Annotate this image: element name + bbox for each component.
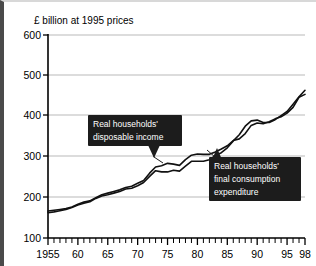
x-tick-label-75: 75 xyxy=(162,248,174,260)
x-tick-labels: 1955606570758085909598 xyxy=(36,248,311,260)
callout-disposable-income-line1: Real households' xyxy=(93,119,158,129)
x-tick-label-1955: 1955 xyxy=(36,248,60,260)
x-minor-tickmarks xyxy=(48,238,305,245)
callout-disposable-income-line2: disposable income xyxy=(93,132,164,142)
y-tick-200: 200 xyxy=(23,191,41,203)
x-tick-label-80: 80 xyxy=(192,248,204,260)
x-tick-label-85: 85 xyxy=(221,248,233,260)
y-tick-600: 600 xyxy=(23,29,41,41)
x-tick-label-60: 60 xyxy=(72,248,84,260)
callout-consumption-expenditure-line2: final consumption xyxy=(214,174,280,184)
x-tick-label-65: 65 xyxy=(102,248,114,260)
y-tick-400: 400 xyxy=(23,109,41,121)
line-chart: £ billion at 1995 prices xyxy=(4,2,316,266)
x-tick-label-90: 90 xyxy=(251,248,263,260)
callout-consumption-expenditure-line1: Real households' xyxy=(214,161,279,171)
chart-frame: £ billion at 1995 prices xyxy=(0,0,316,266)
x-tick-label-98: 98 xyxy=(299,248,311,260)
callout-consumption-expenditure-line3: expenditure xyxy=(214,187,259,197)
axis-title: £ billion at 1995 prices xyxy=(34,15,134,26)
y-tick-300: 300 xyxy=(23,150,41,162)
y-tick-500: 500 xyxy=(23,69,41,81)
y-tick-100: 100 xyxy=(23,232,41,244)
y-tick-labels: 600 500 400 300 200 100 xyxy=(23,29,41,244)
callout-disposable-income: Real households' disposable income xyxy=(88,115,182,158)
chart-svg: £ billion at 1995 prices xyxy=(4,2,316,266)
x-tick-label-95: 95 xyxy=(281,248,293,260)
x-tick-label-70: 70 xyxy=(132,248,144,260)
